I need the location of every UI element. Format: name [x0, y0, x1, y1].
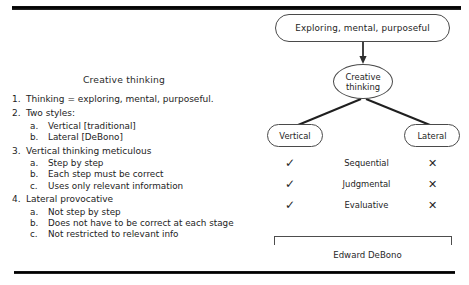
comparison-row-label: Sequential: [258, 154, 469, 173]
outline-item-2-sublist: a. Vertical [traditional] b. Lateral [De…: [26, 121, 244, 143]
attribution-bracket: [274, 236, 452, 245]
comparison-table: ✓ Sequential ✕ ✓ Judgmental ✕ ✓ Evaluati…: [258, 154, 469, 217]
outline-subitem-2b-letter: b.: [30, 132, 38, 143]
outline-list: 1. Thinking = exploring, mental, purpose…: [0, 94, 244, 241]
comparison-row-label: Evaluative: [258, 196, 469, 215]
outline-item-3-sublist: a. Step by step b. Each step must be cor…: [26, 158, 244, 192]
outline-subitem-3b: b. Each step must be correct: [26, 169, 244, 180]
node-creative-thinking-label: Creative thinking: [345, 72, 380, 92]
outline-subitem-4c-letter: c.: [30, 229, 38, 240]
outline-item-1-number: 1.: [12, 94, 21, 106]
outline-item-2-text: Two styles:: [26, 108, 75, 118]
right-diagram-panel: Exploring, mental, purposeful Creative t…: [258, 0, 469, 285]
node-creative-thinking-line2: thinking: [346, 82, 380, 92]
slide-page: Creative thinking 1. Thinking = explorin…: [0, 0, 469, 285]
outline-item-3-number: 3.: [12, 146, 21, 158]
outline-subitem-4c-text: Not restricted to relevant info: [48, 229, 178, 239]
outline-subitem-2a-text: Vertical [traditional]: [48, 121, 136, 131]
outline-subitem-3b-letter: b.: [30, 169, 38, 180]
outline-subitem-2a-letter: a.: [30, 121, 38, 132]
node-lateral: Lateral: [404, 124, 460, 147]
outline-subitem-3a-text: Step by step: [48, 158, 103, 168]
outline-subitem-4a-text: Not step by step: [48, 207, 121, 217]
outline-subitem-4a-letter: a.: [30, 207, 38, 218]
outline-subitem-3b-text: Each step must be correct: [48, 169, 164, 179]
outline-item-2-number: 2.: [12, 108, 21, 120]
outline-item-4-text: Lateral provocative: [26, 194, 113, 204]
outline-item-4: 4. Lateral provocative a. Not step by st…: [0, 194, 244, 240]
attribution-label: Edward DeBono: [258, 250, 469, 260]
outline-subitem-3c-letter: c.: [30, 181, 38, 192]
connector-creative-to-vertical: [298, 99, 361, 125]
outline-subitem-4a: a. Not step by step: [26, 207, 244, 218]
outline-item-1: 1. Thinking = exploring, mental, purpose…: [0, 94, 244, 106]
outline-subitem-4c: c. Not restricted to relevant info: [26, 229, 244, 240]
outline-item-3: 3. Vertical thinking meticulous a. Step …: [0, 146, 244, 192]
outline-item-4-number: 4.: [12, 194, 21, 206]
left-panel-title: Creative thinking: [4, 74, 244, 85]
outline-item-4-sublist: a. Not step by step b. Does not have to …: [26, 207, 244, 241]
outline-subitem-3c-text: Uses only relevant information: [48, 181, 183, 191]
outline-subitem-2a: a. Vertical [traditional]: [26, 121, 244, 132]
outline-item-3-text: Vertical thinking meticulous: [26, 146, 151, 156]
left-text-panel: Creative thinking 1. Thinking = explorin…: [0, 74, 244, 243]
node-creative-thinking-line1: Creative: [345, 72, 380, 82]
outline-item-2: 2. Two styles: a. Vertical [traditional]…: [0, 108, 244, 143]
outline-subitem-4b-letter: b.: [30, 218, 38, 229]
node-exploring-mental-purposeful: Exploring, mental, purposeful: [275, 14, 450, 42]
outline-subitem-3c: c. Uses only relevant information: [26, 181, 244, 192]
outline-subitem-4b: b. Does not have to be correct at each s…: [26, 218, 244, 229]
outline-subitem-3a: a. Step by step: [26, 158, 244, 169]
cross-icon: ✕: [428, 175, 437, 194]
comparison-row: ✓ Judgmental ✕: [258, 175, 469, 196]
comparison-row-label: Judgmental: [258, 175, 469, 194]
outline-item-1-text: Thinking = exploring, mental, purposeful…: [26, 94, 214, 104]
cross-icon: ✕: [428, 154, 437, 173]
comparison-row: ✓ Sequential ✕: [258, 154, 469, 175]
outline-subitem-4b-text: Does not have to be correct at each stag…: [48, 218, 234, 228]
node-creative-thinking: Creative thinking: [333, 64, 393, 99]
outline-subitem-3a-letter: a.: [30, 158, 38, 169]
outline-subitem-2b-text: Lateral [DeBono]: [48, 132, 123, 142]
arrowhead-root-to-creative: [359, 56, 366, 64]
comparison-row: ✓ Evaluative ✕: [258, 196, 469, 217]
outline-subitem-2b: b. Lateral [DeBono]: [26, 132, 244, 143]
connector-creative-to-lateral: [366, 99, 430, 125]
node-vertical: Vertical: [267, 124, 323, 147]
cross-icon: ✕: [428, 196, 437, 215]
